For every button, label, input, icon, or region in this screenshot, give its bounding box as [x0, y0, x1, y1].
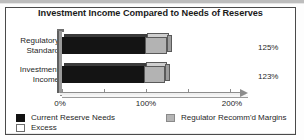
x-axis-label-200: 200% — [222, 99, 242, 108]
legend-black-swatch-icon — [16, 114, 25, 122]
category-label-line1: Regulatory — [0, 36, 59, 46]
category-label-investment-income: Investment Income — [0, 65, 59, 84]
x-axis-tick-150 — [188, 89, 189, 93]
x-axis-tick-50 — [104, 89, 105, 93]
x-axis-tick-100 — [146, 89, 147, 93]
legend-label-current-reserve-needs: Current Reserve Needs — [31, 113, 115, 122]
bar-segment-current-reserve-needs — [62, 66, 144, 83]
x-axis-arrow-icon — [240, 89, 248, 97]
legend-label-excess: Excess — [31, 123, 57, 132]
category-label-line2: Income — [0, 75, 59, 85]
x-axis-label-100: 100% — [136, 99, 156, 108]
x-axis-tick-200 — [230, 89, 231, 93]
bar-value-label-regulatory-standard: 125% — [258, 43, 278, 52]
bar-segment-regulator-margins-side — [167, 35, 172, 52]
bar-segment-current-reserve-needs — [62, 37, 145, 54]
category-label-line1: Investment — [0, 65, 59, 75]
bar-value-label-investment-income: 123% — [258, 72, 278, 81]
scan-bottom-artifact — [6, 133, 295, 134]
x-axis-baseline-front — [62, 95, 248, 98]
chart-container: Investment Income Compared to Needs of R… — [0, 0, 304, 140]
legend-white-swatch-icon — [16, 124, 25, 132]
legend-gray-swatch-icon — [166, 114, 175, 122]
bar-segment-regulator-margins — [145, 37, 167, 54]
x-axis-label-0: 0% — [54, 99, 66, 108]
bar-segment-regulator-margins — [144, 66, 165, 83]
category-label-regulatory-standard: Regulatory Standard — [0, 36, 59, 55]
x-axis-tick-0 — [62, 89, 63, 93]
legend-label-regulator-recommd-margins: Regulator Recomm'd Margins — [181, 113, 287, 122]
axis-wall-shadow — [57, 31, 59, 93]
category-label-line2: Standard — [0, 46, 59, 56]
bar-segment-regulator-margins-side — [165, 64, 170, 81]
